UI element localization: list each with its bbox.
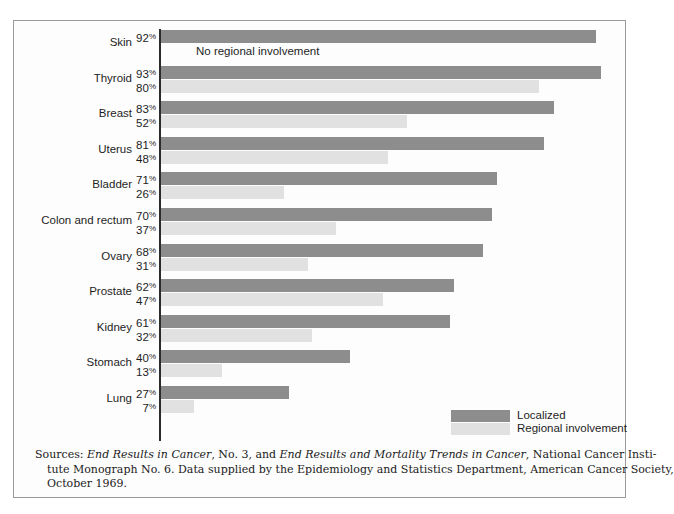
localized-value-label: 92% — [130, 30, 156, 45]
category-label: Skin — [22, 36, 132, 49]
bar-row: Bladder71%26% — [14, 171, 627, 205]
category-label: Ovary — [22, 250, 132, 263]
bar-row-labels: Colon and rectum70%37% — [14, 207, 159, 241]
bar-localized — [161, 350, 350, 363]
source-prefix: Sources: — [35, 448, 87, 461]
localized-value-label: 40% — [130, 350, 156, 365]
bar-row: Stomach40%13% — [14, 349, 627, 383]
localized-value-label: 27% — [130, 386, 156, 401]
localized-value-label: 81% — [130, 137, 156, 152]
bar-row-labels: Uterus81%48% — [14, 136, 159, 170]
bar-row-labels: Ovary68%31% — [14, 243, 159, 277]
bar-row: Colon and rectum70%37% — [14, 207, 627, 241]
bar-row: Ovary68%31% — [14, 243, 627, 277]
bar-row: Uterus81%48% — [14, 136, 627, 170]
category-label: Stomach — [22, 356, 132, 369]
legend-swatch-regional-icon — [451, 423, 510, 435]
category-label: Colon and rectum — [22, 214, 132, 227]
localized-value-label: 62% — [130, 279, 156, 294]
bar-regional — [161, 80, 539, 93]
localized-value-label: 61% — [130, 315, 156, 330]
bar-row-labels: Stomach40%13% — [14, 349, 159, 383]
category-label: Lung — [22, 392, 132, 405]
category-label: Kidney — [22, 321, 132, 334]
bar-localized — [161, 30, 596, 43]
bar-regional — [161, 222, 336, 235]
bar-localized — [161, 172, 497, 185]
bar-regional — [161, 364, 222, 377]
bar-localized — [161, 244, 483, 257]
bar-row-labels: Thyroid93%80% — [14, 65, 159, 99]
localized-value-label: 93% — [130, 66, 156, 81]
localized-value-label: 71% — [130, 172, 156, 187]
bar-regional — [161, 400, 194, 413]
bar-row: Breast83%52% — [14, 100, 627, 134]
bar-regional — [161, 293, 383, 306]
regional-value-label: 48% — [130, 151, 156, 166]
regional-value-label: 31% — [130, 258, 156, 273]
source-title-2: End Results and Mortality Trends in Canc… — [280, 448, 526, 461]
bar-regional — [161, 186, 284, 199]
category-label: Prostate — [22, 285, 132, 298]
source-note-line-3: October 1969. — [35, 477, 615, 492]
category-label: Breast — [22, 107, 132, 120]
source-mid-2: , National Cancer Insti- — [526, 448, 657, 461]
source-note-line-1: Sources: End Results in Cancer, No. 3, a… — [35, 448, 615, 463]
localized-value-label: 68% — [130, 244, 156, 259]
category-label: Bladder — [22, 178, 132, 191]
bar-row-labels: Lung27%7% — [14, 385, 159, 419]
bar-row: Prostate62%47% — [14, 278, 627, 312]
legend-label-regional: Regional involvement — [517, 422, 627, 435]
regional-value-label: 52% — [130, 115, 156, 130]
bar-regional — [161, 115, 407, 128]
chart-legend: Localized Regional involvement — [451, 410, 621, 436]
legend-item-regional: Regional involvement — [451, 423, 621, 436]
source-mid-1: , No. 3, and — [211, 448, 279, 461]
category-label: Thyroid — [22, 72, 132, 85]
regional-value-label: 7% — [130, 400, 156, 415]
bar-row: Skin92%No regional involvement — [14, 29, 627, 63]
legend-swatch-localized-icon — [451, 410, 510, 422]
bar-localized — [161, 279, 454, 292]
figure-panel: Skin92%No regional involvementThyroid93%… — [13, 20, 626, 498]
bar-regional — [161, 329, 312, 342]
regional-value-label: 13% — [130, 364, 156, 379]
bar-localized — [161, 137, 544, 150]
regional-value-label: 47% — [130, 293, 156, 308]
source-note: Sources: End Results in Cancer, No. 3, a… — [35, 448, 615, 492]
legend-label-localized: Localized — [517, 409, 566, 422]
bar-localized — [161, 101, 554, 114]
bar-row-labels: Bladder71%26% — [14, 171, 159, 205]
bar-row: Kidney61%32% — [14, 314, 627, 348]
category-label: Uterus — [22, 143, 132, 156]
bar-row-labels: Breast83%52% — [14, 100, 159, 134]
bar-localized — [161, 315, 450, 328]
source-note-line-2: tute Monograph No. 6. Data supplied by t… — [35, 463, 615, 478]
chart-plot-area: Skin92%No regional involvementThyroid93%… — [14, 21, 627, 421]
regional-value-label: 26% — [130, 186, 156, 201]
regional-value-label: 32% — [130, 329, 156, 344]
bar-row-labels: Prostate62%47% — [14, 278, 159, 312]
localized-value-label: 70% — [130, 208, 156, 223]
no-regional-involvement-note: No regional involvement — [196, 45, 319, 57]
regional-value-label: 80% — [130, 80, 156, 95]
bar-regional — [161, 151, 388, 164]
bar-regional — [161, 258, 308, 271]
bar-localized — [161, 66, 601, 79]
source-title-1: End Results in Cancer — [87, 448, 211, 461]
bar-localized — [161, 386, 289, 399]
bar-localized — [161, 208, 492, 221]
bar-row: Thyroid93%80% — [14, 65, 627, 99]
regional-value-label: 37% — [130, 222, 156, 237]
localized-value-label: 83% — [130, 101, 156, 116]
bar-row-labels: Skin92% — [14, 29, 159, 63]
bar-row-labels: Kidney61%32% — [14, 314, 159, 348]
